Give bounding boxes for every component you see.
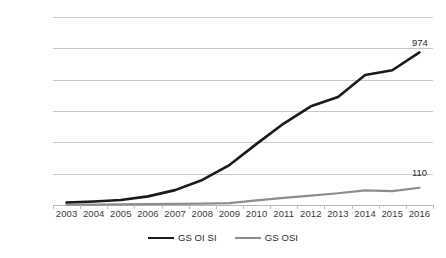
x-axis: 2003200420052006200720082009201020112012… (53, 208, 433, 224)
x-tick-label-2009: 2009 (216, 208, 243, 224)
legend-label: GS OSI (265, 232, 298, 243)
x-tick-label-2013: 2013 (324, 208, 351, 224)
legend-line-swatch-icon (148, 237, 174, 239)
legend-line-swatch-icon (235, 237, 261, 239)
x-tick-label-2005: 2005 (107, 208, 134, 224)
legend-label: GS OI SI (178, 232, 217, 243)
x-tick-label-2008: 2008 (189, 208, 216, 224)
x-tick-mark (433, 205, 434, 209)
line-chart: 1,200 1,000 800 600 400 200 0 974 110 20… (0, 0, 446, 258)
x-tick-label-2007: 2007 (162, 208, 189, 224)
series-line-gs-oi-si (67, 52, 420, 202)
x-tick-label-2006: 2006 (134, 208, 161, 224)
legend-item-gs-oi-si[interactable]: GS OI SI (148, 232, 217, 243)
x-tick-label-2015: 2015 (379, 208, 406, 224)
data-label-gs-osi: 110 (412, 167, 427, 178)
x-tick-label-2016: 2016 (406, 208, 433, 224)
x-tick-label-2012: 2012 (297, 208, 324, 224)
x-tick-label-2004: 2004 (80, 208, 107, 224)
x-tick-label-2003: 2003 (53, 208, 80, 224)
series-line-gs-osi (67, 188, 420, 205)
x-tick-label-2011: 2011 (270, 208, 297, 224)
data-label-gs-oi-si: 974 (412, 37, 428, 48)
x-tick-label-2010: 2010 (243, 208, 270, 224)
series-container (53, 17, 433, 205)
legend-item-gs-osi[interactable]: GS OSI (235, 232, 298, 243)
x-tick-label-2014: 2014 (352, 208, 379, 224)
chart-legend: GS OI SI GS OSI (0, 232, 446, 243)
